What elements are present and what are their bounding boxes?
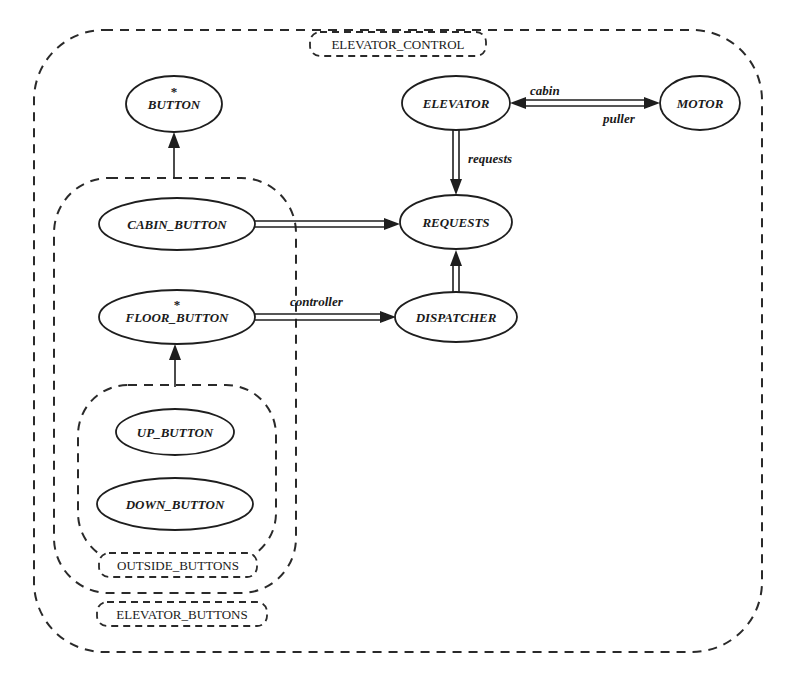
node-label: FLOOR_BUTTON (124, 310, 229, 325)
node-requests[interactable]: REQUESTS (400, 195, 512, 249)
client-arrowhead-icon (450, 250, 462, 266)
client-arrowhead-icon (384, 218, 400, 230)
node-label: CABIN_BUTTON (127, 217, 227, 232)
edge-label-controller: controller (290, 294, 344, 309)
edge-elevator-motor: cabin puller (510, 83, 660, 126)
edge-dispatcher-requests (450, 250, 462, 292)
node-label: BUTTON (147, 97, 201, 112)
client-arrowhead-icon (644, 97, 660, 109)
inheritance-arrowhead-icon (168, 132, 180, 148)
node-cabin-button[interactable]: CABIN_BUTTON (99, 198, 255, 250)
edge-inherit-button (168, 132, 180, 178)
node-label: MOTOR (676, 96, 724, 111)
node-dispatcher[interactable]: DISPATCHER (395, 292, 517, 342)
node-floor-button[interactable]: FLOOR_BUTTON* (99, 290, 255, 344)
node-label: DOWN_BUTTON (125, 497, 225, 512)
edge-cabin-button-requests (255, 218, 400, 230)
edge-label-requests: requests (468, 151, 512, 166)
edge-inherit-floor-button (169, 344, 181, 387)
elevator-control-diagram: controller requests cabin puller BUTTON*… (0, 0, 792, 682)
node-down-button[interactable]: DOWN_BUTTON (97, 478, 253, 530)
node-label: UP_BUTTON (137, 425, 214, 440)
node-label: ELEVATOR (422, 96, 490, 111)
node-elevator[interactable]: ELEVATOR (402, 76, 510, 130)
edge-elevator-requests: requests (450, 130, 512, 195)
node-button[interactable]: BUTTON* (126, 76, 222, 132)
inheritance-arrowhead-icon (169, 344, 181, 360)
cluster-tag-elevator-buttons: ELEVATOR_BUTTONS (97, 602, 267, 626)
edge-label-cabin: cabin (530, 83, 560, 98)
node-up-button[interactable]: UP_BUTTON (116, 409, 234, 455)
deferred-star-icon: * (171, 84, 178, 99)
nodes: BUTTON*CABIN_BUTTONFLOOR_BUTTON*UP_BUTTO… (97, 76, 740, 530)
cluster-tag-outside-buttons: OUTSIDE_BUTTONS (99, 553, 257, 577)
node-motor[interactable]: MOTOR (660, 76, 740, 130)
deferred-star-icon: * (174, 297, 181, 312)
node-label: REQUESTS (421, 215, 489, 230)
client-arrowhead-icon (380, 311, 396, 323)
edge-floor-button-dispatcher: controller (255, 294, 396, 323)
client-arrowhead-icon (450, 179, 462, 195)
cluster-tag-label: OUTSIDE_BUTTONS (117, 558, 239, 573)
cluster-tag-elevator-control: ELEVATOR_CONTROL (310, 32, 486, 56)
client-arrowhead-icon (510, 97, 526, 109)
cluster-tag-label: ELEVATOR_CONTROL (331, 37, 464, 52)
node-label: DISPATCHER (415, 310, 497, 325)
edge-label-puller: puller (602, 111, 636, 126)
cluster-tag-label: ELEVATOR_BUTTONS (116, 607, 247, 622)
